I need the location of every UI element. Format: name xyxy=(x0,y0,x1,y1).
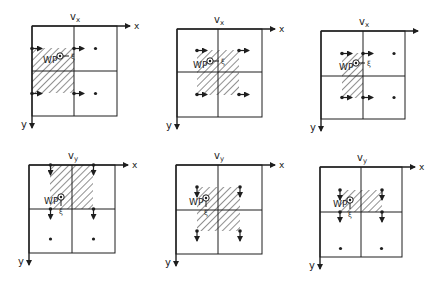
node-dot xyxy=(92,237,95,240)
component-label: vx xyxy=(214,14,224,27)
y-axis-label: y xyxy=(165,257,171,268)
weight-point-center xyxy=(349,199,351,201)
component-label: vy xyxy=(68,150,78,163)
diagram-canvas: vxxyWPξ vxxyWPξ vxyWPξ vyxyWPξ vyxyWPξ v… xyxy=(0,0,436,284)
weight-point-center xyxy=(60,196,62,198)
component-label: vx xyxy=(359,16,369,29)
weight-point-label: WP xyxy=(43,55,58,65)
node-dot xyxy=(380,247,383,250)
weight-point-label: WP xyxy=(333,199,348,209)
x-axis-label: x xyxy=(134,21,140,31)
node-dot xyxy=(392,52,395,55)
xi-mark: ξ xyxy=(71,53,75,61)
y-axis-label: y xyxy=(309,260,315,271)
panel-vx-1: vxxyWPξ xyxy=(21,11,140,130)
panel-vy-2: vyxyWPξ xyxy=(165,150,285,268)
x-axis-label: x xyxy=(279,24,285,34)
xi-mark: ξ xyxy=(204,209,208,217)
y-axis-label: y xyxy=(166,120,172,131)
weight-point-label: WP xyxy=(339,62,354,72)
node-dot xyxy=(392,96,395,99)
weight-point-center xyxy=(355,62,357,64)
xi-mark: ξ xyxy=(221,58,225,66)
x-axis-label: x xyxy=(279,160,285,170)
node-dot xyxy=(339,247,342,250)
weight-point-center xyxy=(205,197,207,199)
panel-vx-2: vxxyWPξ xyxy=(166,14,285,131)
xi-mark: ξ xyxy=(59,208,63,216)
y-axis-label: y xyxy=(310,122,316,133)
component-label: vy xyxy=(214,150,224,163)
panel-vx-3: vxyWPξ xyxy=(310,16,418,133)
weight-point-label: WP xyxy=(189,197,204,207)
weight-point-center xyxy=(209,60,211,62)
panel-vy-1: vyxyWPξ xyxy=(18,150,138,267)
node-dot xyxy=(94,92,97,95)
panel-vy-3: vyxyWPξ xyxy=(309,152,425,271)
weight-point-center xyxy=(59,55,61,57)
xi-mark: ξ xyxy=(348,211,352,219)
node-dot xyxy=(94,47,97,50)
component-label: vy xyxy=(357,152,367,165)
weight-point-label: WP xyxy=(193,60,208,70)
node-dot xyxy=(49,237,52,240)
xi-mark: ξ xyxy=(367,60,371,68)
component-label: vx xyxy=(70,11,80,24)
x-axis-label: x xyxy=(419,162,425,172)
x-axis-label: x xyxy=(132,160,138,170)
weight-point-label: WP xyxy=(44,196,59,206)
y-axis-label: y xyxy=(21,119,27,130)
y-axis-label: y xyxy=(18,256,24,267)
